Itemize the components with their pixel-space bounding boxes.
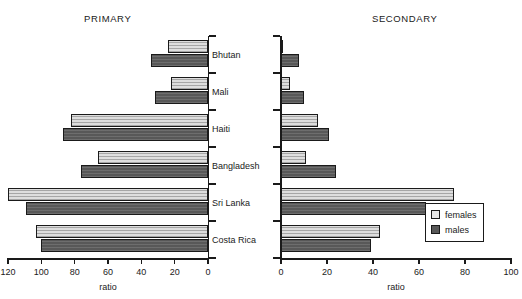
bar-females-mali [281,77,290,90]
value-tick-label: 0 [278,267,283,277]
value-tick [326,258,328,264]
value-tick-label: 100 [34,267,49,277]
bar-females-sri-lanka [8,188,208,201]
bar-males-bhutan [151,54,208,67]
legend-label-males: males [445,225,469,235]
category-tick [273,183,280,185]
category-tick [273,220,280,222]
x-axis-label: ratio [387,282,405,292]
bar-males-costa-rica [41,239,208,252]
category-tick [209,257,216,259]
category-label-haiti: Haiti [212,124,230,134]
value-tick [174,258,176,264]
value-tick-label: 120 [0,267,15,277]
value-tick-label: 20 [170,267,180,277]
value-tick [7,258,9,264]
value-tick-label: 40 [136,267,146,277]
category-label-bangladesh: Bangladesh [212,161,260,171]
legend-swatch-females-icon [431,210,440,219]
panel-title-secondary: SECONDARY [372,13,437,24]
category-tick [209,183,216,185]
value-tick-label: 0 [205,267,210,277]
category-tick [209,220,216,222]
value-tick-label: 80 [460,267,470,277]
legend-item-males: males [431,222,477,237]
bar-females-haiti [71,114,208,127]
legend-swatch-males-icon [431,225,440,234]
chart-legend: females males [425,203,484,242]
category-label-bhutan: Bhutan [212,50,241,60]
bar-males-bangladesh [281,165,336,178]
bar-males-costa-rica [281,239,371,252]
value-tick-label: 60 [103,267,113,277]
bar-females-bangladesh [281,151,306,164]
value-tick-label: 40 [368,267,378,277]
bar-males-mali [281,91,304,104]
bar-females-bhutan [168,40,208,53]
value-tick [207,258,209,264]
category-tick [273,109,280,111]
category-label-mali: Mali [212,87,229,97]
bar-males-haiti [281,128,329,141]
value-axis-secondary [281,258,511,260]
bar-females-haiti [281,114,318,127]
bar-males-mali [155,91,208,104]
bar-females-mali [171,77,208,90]
value-tick-label: 60 [414,267,424,277]
value-tick [141,258,143,264]
category-tick [273,146,280,148]
bar-females-costa-rica [36,225,208,238]
category-label-sri-lanka: Sri Lanka [212,198,250,208]
legend-item-females: females [431,207,477,222]
value-tick-label: 100 [503,267,518,277]
value-tick [41,258,43,264]
category-label-costa-rica: Costa Rica [212,235,256,245]
value-tick [464,258,466,264]
bar-females-costa-rica [281,225,380,238]
category-tick [209,72,216,74]
bar-males-bangladesh [81,165,208,178]
category-tick [273,257,280,259]
chart-figure: PRIMARY SECONDARY 120100806040200ratio 0… [0,0,522,299]
value-tick [418,258,420,264]
legend-label-females: females [445,210,477,220]
bar-males-sri-lanka [281,202,426,215]
bar-females-bhutan [281,40,283,53]
bar-males-haiti [63,128,208,141]
value-tick-label: 20 [322,267,332,277]
value-tick-label: 80 [70,267,80,277]
bar-males-bhutan [281,54,299,67]
bar-females-sri-lanka [281,188,454,201]
category-tick [209,146,216,148]
category-tick [273,72,280,74]
value-tick [107,258,109,264]
x-axis-label: ratio [99,282,117,292]
plot-area-primary: 120100806040200ratio [8,36,208,258]
bar-females-bangladesh [98,151,208,164]
value-tick [510,258,512,264]
value-tick [74,258,76,264]
category-tick [209,35,216,37]
category-tick [209,109,216,111]
value-tick [372,258,374,264]
value-tick [280,258,282,264]
bar-males-sri-lanka [26,202,208,215]
category-tick [273,35,280,37]
panel-title-primary: PRIMARY [84,13,131,24]
